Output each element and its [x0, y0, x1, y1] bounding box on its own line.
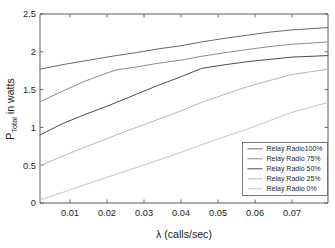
x-tick-label: 0.06 [246, 208, 264, 218]
x-tick-label: 0.04 [172, 208, 190, 218]
svg-text:PTotal in watts: PTotal in watts [4, 78, 19, 140]
y-tick-label: 2.5 [23, 9, 36, 19]
x-tick-label: 0.07 [283, 208, 301, 218]
y-tick-label: 1.5 [23, 85, 36, 95]
x-tick-label: 0.01 [61, 208, 79, 218]
x-tick-label: 0.02 [98, 208, 116, 218]
y-axis-tick-labels: 00.511.522.5 [23, 9, 36, 208]
x-tick-label: 0.03 [135, 208, 153, 218]
series-line [40, 28, 328, 70]
x-tick-label: 0.05 [209, 208, 227, 218]
legend-label: Relay Radio 25% [267, 175, 321, 183]
series-line [40, 56, 328, 135]
legend-label: Relay Radio 75% [267, 155, 321, 163]
y-tick-label: 0.5 [23, 161, 36, 171]
legend-label: Relay Radio 50% [267, 165, 321, 173]
y-axis-label: PTotal in watts [4, 78, 19, 140]
figure-canvas: 0.010.020.030.040.050.060.07 00.511.522.… [0, 0, 335, 248]
x-axis-tick-labels: 0.010.020.030.040.050.060.07 [61, 208, 301, 218]
legend-label: Relay Radio 0% [267, 185, 317, 193]
legend-label: Relay Radio100% [267, 145, 323, 153]
y-tick-label: 2 [31, 47, 36, 57]
y-tick-label: 0 [31, 198, 36, 208]
line-chart: 0.010.020.030.040.050.060.07 00.511.522.… [0, 0, 335, 248]
series-line [40, 42, 328, 102]
legend[interactable]: Relay Radio100%Relay Radio 75%Relay Radi… [243, 143, 328, 196]
x-axis-label: λ (calls/sec) [156, 228, 212, 240]
y-tick-label: 1 [31, 123, 36, 133]
